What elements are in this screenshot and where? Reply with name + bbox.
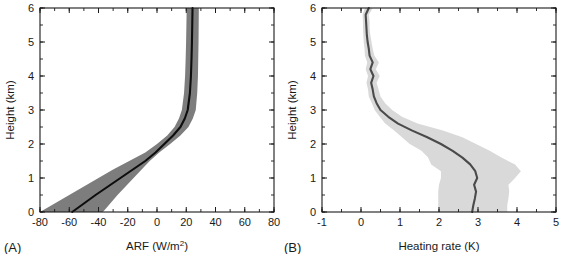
x-tick-label: -40 [91, 216, 107, 228]
y-tick-label: 4 [28, 70, 34, 82]
panel-b-plot: -10123450123456Height (km)Heating rate (… [284, 0, 567, 254]
x-tick-label: 4 [514, 216, 520, 228]
x-tick-label: -1 [317, 216, 327, 228]
y-tick-label: 5 [310, 36, 316, 48]
uncertainty-band [40, 8, 199, 212]
x-tick-label: 0 [358, 216, 364, 228]
y-tick-label: 2 [28, 138, 34, 150]
x-tick-label: -60 [61, 216, 77, 228]
plot-frame [322, 8, 556, 212]
y-tick-label: 5 [28, 36, 34, 48]
y-tick-label: 1 [28, 172, 34, 184]
y-tick-label: 3 [310, 104, 316, 116]
x-tick-label: 1 [397, 216, 403, 228]
x-axis-title: ARF (W/m2) [126, 239, 188, 252]
x-tick-label: 3 [475, 216, 481, 228]
panel-a-plot: -80-60-40-200204060800123456Height (km)A… [0, 0, 284, 254]
x-tick-label: 20 [180, 216, 192, 228]
panel-a: -80-60-40-200204060800123456Height (km)A… [0, 0, 284, 254]
y-tick-label: 0 [28, 206, 34, 218]
y-tick-label: 2 [310, 138, 316, 150]
panel-label: (B) [284, 240, 301, 254]
figure-container: -80-60-40-200204060800123456Height (km)A… [0, 0, 567, 254]
y-tick-label: 1 [310, 172, 316, 184]
x-tick-label: 80 [268, 216, 280, 228]
y-tick-label: 3 [28, 104, 34, 116]
x-axis-title: Heating rate (K) [398, 240, 479, 252]
panel-b: -10123450123456Height (km)Heating rate (… [284, 0, 567, 254]
mean-profile-line [72, 8, 192, 212]
uncertainty-band [363, 8, 521, 212]
x-tick-label: 2 [436, 216, 442, 228]
y-tick-label: 4 [310, 70, 316, 82]
x-tick-label: 5 [553, 216, 559, 228]
y-tick-label: 6 [28, 2, 34, 14]
plot-frame [40, 8, 274, 212]
y-tick-label: 0 [310, 206, 316, 218]
y-axis-title: Height (km) [4, 80, 16, 140]
x-tick-label: -20 [120, 216, 136, 228]
x-tick-label: -80 [32, 216, 48, 228]
x-tick-label: 40 [209, 216, 221, 228]
y-axis-title: Height (km) [286, 80, 298, 140]
x-tick-label: 60 [239, 216, 251, 228]
x-tick-label: 0 [154, 216, 160, 228]
panel-label: (A) [4, 240, 21, 254]
y-tick-label: 6 [310, 2, 316, 14]
